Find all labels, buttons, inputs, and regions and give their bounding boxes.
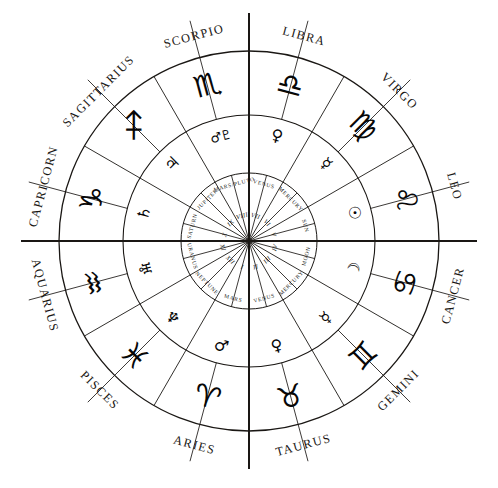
sector-divider-line (84, 241, 249, 336)
sector-divider-line (249, 223, 315, 241)
sector-divider-line (29, 182, 128, 208)
sector-divider-line (249, 241, 267, 307)
sector-divider-line (371, 274, 470, 300)
sector-divider-line (249, 76, 344, 241)
sector-divider-line (231, 241, 249, 307)
sector-divider-line (282, 363, 308, 462)
sector-divider-line (338, 80, 410, 152)
sector-divider-line (88, 80, 160, 152)
sector-divider-line (231, 175, 249, 241)
sector-divider-line (371, 182, 470, 208)
sector-divider-line (29, 274, 128, 300)
sector-divider-line (282, 21, 308, 120)
sector-divider-line (249, 241, 344, 406)
sector-divider-line (249, 175, 267, 241)
sector-divider-line (183, 223, 249, 241)
sector-divider-line (249, 241, 315, 259)
sector-divider-line (249, 241, 414, 336)
sector-divider-line (154, 241, 249, 406)
sector-divider-line (154, 76, 249, 241)
sector-divider-line (84, 146, 249, 241)
sector-divider-line (190, 363, 216, 462)
zodiac-wheel (0, 0, 498, 488)
sector-divider-line (249, 146, 414, 241)
sector-divider-line (183, 241, 249, 259)
sector-divider-line (88, 330, 160, 402)
sector-divider-line (190, 21, 216, 120)
sector-divider-line (338, 330, 410, 402)
